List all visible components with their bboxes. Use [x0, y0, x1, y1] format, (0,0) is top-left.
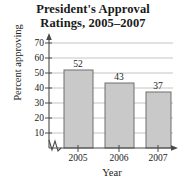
x-axis-title: Year: [48, 167, 176, 178]
y-tick-label-50: 50: [22, 68, 44, 78]
x-axis-arrow-icon: [171, 145, 178, 151]
bar-value-label-2006: 43: [102, 72, 136, 82]
y-axis-arrow-icon: [46, 33, 52, 40]
y-axis-title: Percent approving: [12, 15, 23, 111]
y-tick-label-10: 10: [22, 128, 44, 138]
bar-2007: [146, 92, 171, 148]
axis-break-zigzag-icon: [49, 140, 61, 151]
bar-value-label-2005: 52: [61, 59, 95, 69]
y-tick-label-70: 70: [22, 38, 44, 48]
bar-value-label-2007: 37: [141, 81, 175, 91]
approval-ratings-bar-chart: President's Approval Ratings, 2005–2007: [0, 0, 186, 185]
y-tick-label-30: 30: [22, 98, 44, 108]
bar-2006: [105, 83, 134, 148]
x-tick-label-2007: 2007: [138, 153, 178, 163]
x-tick-label-2005: 2005: [58, 153, 98, 163]
y-tick-label-20: 20: [22, 113, 44, 123]
x-tick-label-2006: 2006: [99, 153, 139, 163]
bar-2005: [64, 70, 93, 148]
y-tick-label-40: 40: [22, 83, 44, 93]
y-tick-label-60: 60: [22, 53, 44, 63]
